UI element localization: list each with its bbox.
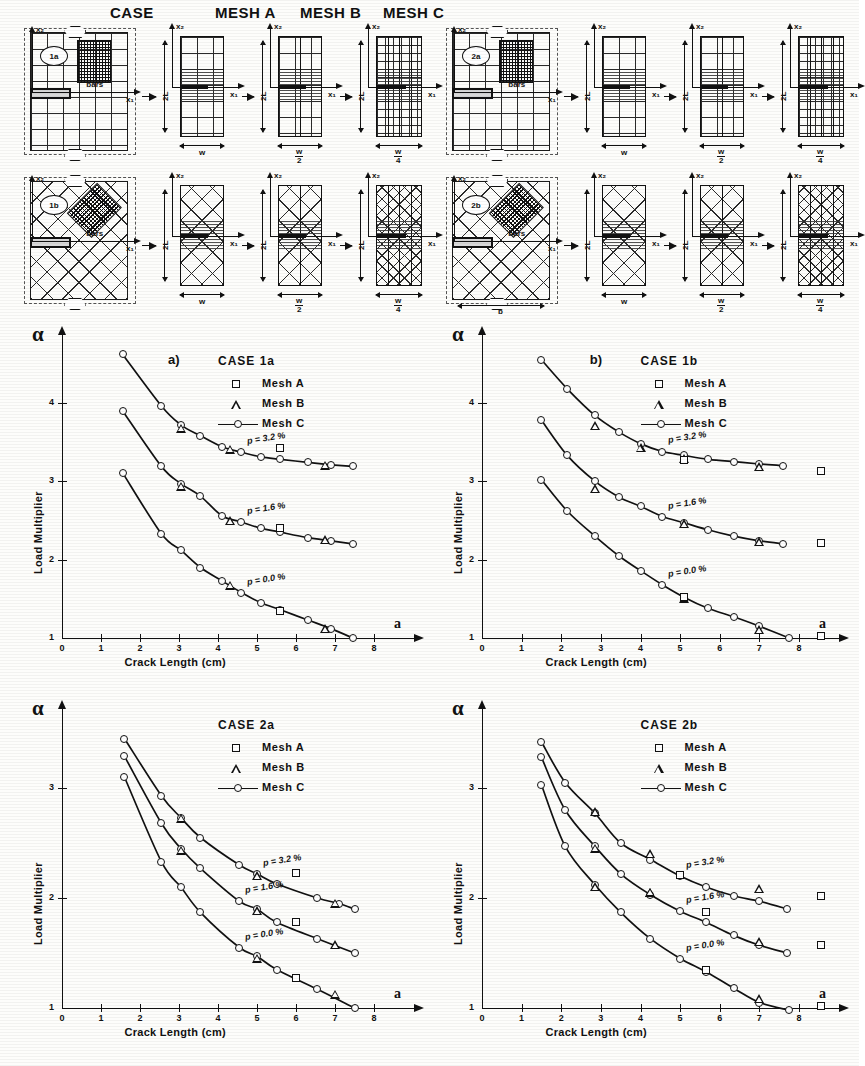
axis-x2-arrow [591, 172, 597, 178]
data-point-square [276, 607, 284, 615]
data-point-circle [351, 905, 359, 913]
data-point-triangle [252, 954, 262, 963]
axis-label-x2: x₂ [274, 171, 282, 180]
axis-label-x2: x₂ [274, 22, 282, 31]
data-point-circle [235, 944, 243, 952]
axis-label-x2: x₂ [458, 174, 466, 183]
mesh-b-2b: x₂x₁2Lw2 [678, 175, 762, 310]
data-point-circle [349, 634, 357, 642]
axis-x1 [32, 241, 136, 242]
schematic-header-0: CASE [110, 4, 154, 21]
dim-w-line [700, 294, 744, 295]
data-point-triangle [252, 871, 262, 880]
dim-w-line [180, 294, 224, 295]
dim-w-fraction: w4 [816, 148, 824, 165]
bars-label: bars [86, 229, 103, 238]
data-point-circle [615, 428, 623, 436]
dim-2L-line [262, 190, 263, 281]
axis-x2 [790, 28, 791, 87]
data-point-circle [730, 984, 738, 992]
dim-b-label: b [498, 307, 503, 316]
dim-2L-label: 2L [357, 91, 366, 100]
case-panel-2a: 2abarsx₂x₁ [440, 26, 562, 161]
chart-3: αa123012345678Load MultiplierCrack Lengt… [10, 696, 430, 1064]
axis-x2 [692, 177, 693, 236]
dim-2L-line [586, 41, 587, 132]
axis-label-x1: x₁ [548, 244, 556, 253]
dim-2L-label: 2L [779, 91, 788, 100]
data-point-circle [617, 908, 625, 916]
dim-w-fraction: w4 [394, 148, 402, 165]
data-point-square [817, 892, 825, 900]
axis-x1-arrow [758, 232, 765, 238]
data-point-square [292, 974, 300, 982]
data-point-circle [119, 469, 127, 477]
dim-w-line [180, 145, 224, 146]
axis-x1 [454, 241, 558, 242]
data-point-triangle [176, 814, 186, 823]
axis-x2 [454, 31, 455, 92]
dim-w-label: w [621, 148, 627, 157]
data-point-circle [676, 955, 684, 963]
flow-arrow [762, 96, 774, 97]
data-point-circle [351, 949, 359, 957]
axis-x2 [172, 177, 173, 236]
dim-2L-line [684, 190, 685, 281]
data-point-square [817, 539, 825, 547]
data-point-circle [196, 834, 204, 842]
dim-2L-line [360, 41, 361, 132]
data-point-circle [120, 735, 128, 743]
series-line [541, 785, 789, 1011]
axis-x1 [270, 87, 338, 88]
axis-x1 [172, 236, 240, 237]
axis-label-x1: x₁ [750, 90, 758, 99]
data-point-triangle [754, 462, 764, 471]
data-point-circle [273, 918, 281, 926]
data-point-triangle [754, 937, 764, 946]
axis-x1-arrow [556, 238, 563, 244]
data-point-circle [658, 513, 666, 521]
axis-label-x2: x₂ [794, 171, 802, 180]
axis-label-x2: x₂ [598, 22, 606, 31]
dim-w-line [376, 294, 422, 295]
axis-label-x1: x₁ [230, 90, 238, 99]
data-point-square [817, 941, 825, 949]
axis-label-x2: x₂ [696, 22, 704, 31]
axis-x1-arrow [336, 83, 343, 89]
data-point-square [817, 632, 825, 640]
flow-arrow [340, 96, 352, 97]
axis-x1 [368, 87, 438, 88]
dim-2L-line [782, 190, 783, 281]
axis-x2-arrow [169, 172, 175, 178]
axis-x2 [172, 28, 173, 87]
series-line [124, 756, 354, 953]
axis-label-x1: x₁ [126, 244, 134, 253]
dim-w-fraction: w2 [717, 148, 725, 165]
data-point-square [680, 456, 688, 464]
axis-x1-arrow [336, 232, 343, 238]
data-point-triangle [225, 516, 235, 525]
chart-2: αa1234012345678Load MultiplierCrack Leng… [430, 322, 855, 694]
axis-label-x2: x₂ [36, 25, 44, 34]
flow-arrow [564, 96, 578, 97]
axis-label-x1: x₁ [548, 95, 556, 104]
schematic-panels: CASEMESH AMESH BMESH C1abarsx₂x₁x₂x₁2Lwx… [0, 0, 859, 318]
data-point-triangle [590, 421, 600, 430]
axis-x2-arrow [267, 23, 273, 29]
data-point-square [817, 1002, 825, 1010]
axis-x1 [790, 87, 860, 88]
axis-x2 [32, 180, 33, 241]
dim-2L-line [782, 41, 783, 132]
data-point-triangle [176, 424, 186, 433]
axis-label-x1: x₁ [230, 239, 238, 248]
axis-x1-arrow [858, 232, 865, 238]
data-point-circle [177, 883, 185, 891]
dim-2L-label: 2L [583, 240, 592, 249]
dim-w-label: w [621, 297, 627, 306]
axis-x2-arrow [689, 172, 695, 178]
data-point-circle [196, 564, 204, 572]
axis-x1-arrow [758, 83, 765, 89]
axis-x2 [270, 177, 271, 236]
case-panel-2b: 2bbarsx₂x₁ [440, 175, 562, 310]
